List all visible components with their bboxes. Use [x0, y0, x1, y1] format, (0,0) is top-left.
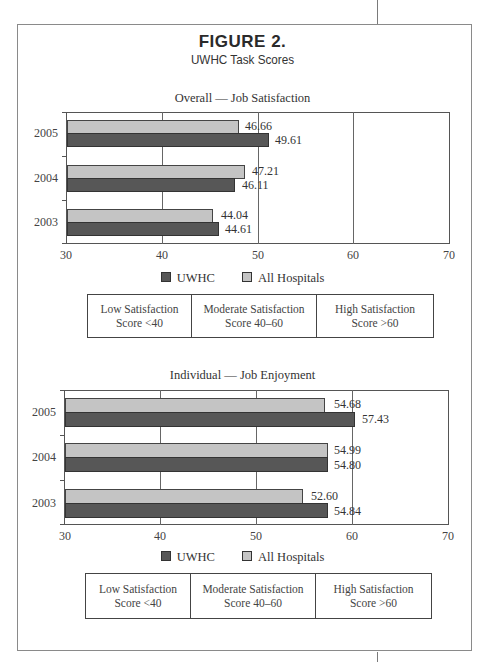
y-label-2004: 2004 [20, 450, 56, 465]
page-rule-top [377, 0, 378, 24]
value-uwhc-2003: 54.84 [334, 504, 361, 519]
key-high-range: Score >60 [333, 596, 413, 610]
value-all-hospitals-2005: 46.66 [245, 119, 272, 134]
legend: UWHC All Hospitals [0, 271, 485, 286]
value-uwhc-2003: 44.61 [225, 222, 252, 237]
x-tick-50: 50 [241, 529, 271, 544]
bar-uwhc-2003 [67, 222, 219, 236]
bar-uwhc-2005 [67, 133, 269, 147]
key-moderate-range: Score 40–60 [202, 596, 303, 610]
key-high-title: High Satisfaction [333, 582, 413, 596]
key-moderate-title: Moderate Satisfaction [202, 582, 303, 596]
legend-item-all-hospitals: All Hospitals [242, 271, 324, 286]
bar-all-hospitals-2005 [65, 398, 325, 413]
bar-all-hospitals-2003 [65, 489, 303, 504]
all-hospitals-swatch-icon [242, 272, 252, 282]
y-tick [62, 243, 66, 244]
x-tick-60: 60 [338, 248, 368, 263]
y-label-2005: 2005 [22, 126, 58, 141]
x-tick-70: 70 [433, 529, 463, 544]
bar-all-hospitals-2004 [65, 443, 328, 458]
bar-all-hospitals-2005 [67, 120, 239, 134]
page-rule-bottom [377, 652, 378, 662]
bar-uwhc-2003 [65, 503, 328, 518]
x-tick-30: 30 [51, 248, 81, 263]
value-all-hospitals-2004: 47.21 [252, 164, 279, 179]
satisfaction-key: Low SatisfactionScore <40 Moderate Satis… [85, 573, 432, 619]
gridline-60 [353, 112, 354, 244]
key-moderate-title: Moderate Satisfaction [203, 302, 304, 316]
uwhc-swatch-icon [161, 272, 171, 282]
bar-uwhc-2005 [65, 412, 355, 427]
key-low-title: Low Satisfaction [99, 582, 177, 596]
y-label-2004: 2004 [22, 171, 58, 186]
figure-subtitle: UWHC Task Scores [24, 52, 461, 67]
y-tick [60, 435, 64, 436]
satisfaction-key: Low SatisfactionScore <40 Moderate Satis… [87, 294, 434, 338]
legend-label-all-hospitals: All Hospitals [258, 550, 324, 564]
chart-title: Individual — Job Enjoyment [0, 368, 485, 383]
figure-label: FIGURE 2. [0, 32, 485, 52]
value-uwhc-2005: 49.61 [275, 133, 302, 148]
legend-label-all-hospitals: All Hospitals [258, 271, 324, 285]
bar-all-hospitals-2004 [67, 165, 245, 179]
y-label-2003: 2003 [22, 215, 58, 230]
y-tick [60, 480, 64, 481]
x-tick-50: 50 [243, 248, 273, 263]
chart-title: Overall — Job Satisfaction [0, 91, 485, 106]
uwhc-swatch-icon [161, 551, 171, 561]
key-low-range: Score <40 [99, 596, 177, 610]
y-tick [60, 524, 64, 525]
key-low: Low SatisfactionScore <40 [88, 295, 192, 337]
value-all-hospitals-2003: 44.04 [221, 208, 248, 223]
legend: UWHC All Hospitals [0, 550, 485, 565]
y-label-2005: 2005 [20, 405, 56, 420]
legend-item-uwhc: UWHC [161, 550, 215, 565]
key-high-range: Score >60 [335, 316, 415, 330]
key-low-title: Low Satisfaction [100, 302, 178, 316]
y-label-2003: 2003 [20, 496, 56, 511]
y-tick [62, 112, 66, 113]
y-tick [60, 390, 64, 391]
legend-label-uwhc: UWHC [177, 271, 215, 285]
key-high: High SatisfactionScore >60 [316, 574, 431, 618]
x-tick-40: 40 [147, 248, 177, 263]
value-uwhc-2005: 57.43 [362, 412, 389, 427]
y-tick [62, 156, 66, 157]
legend-item-all-hospitals: All Hospitals [242, 550, 324, 565]
bar-all-hospitals-2003 [67, 209, 213, 223]
value-uwhc-2004: 54.80 [334, 458, 361, 473]
value-all-hospitals-2004: 54.99 [334, 443, 361, 458]
key-moderate-range: Score 40–60 [203, 316, 304, 330]
value-all-hospitals-2003: 52.60 [311, 489, 338, 504]
x-tick-30: 30 [50, 529, 80, 544]
all-hospitals-swatch-icon [242, 551, 252, 561]
value-uwhc-2004: 46.11 [242, 178, 269, 193]
x-tick-70: 70 [434, 248, 464, 263]
y-tick [62, 200, 66, 201]
x-tick-60: 60 [337, 529, 367, 544]
value-all-hospitals-2005: 54.68 [334, 397, 361, 412]
bar-uwhc-2004 [67, 178, 235, 192]
bar-uwhc-2004 [65, 457, 328, 472]
key-high: High SatisfactionScore >60 [317, 295, 433, 337]
legend-label-uwhc: UWHC [177, 550, 215, 564]
key-high-title: High Satisfaction [335, 302, 415, 316]
x-tick-40: 40 [145, 529, 175, 544]
key-moderate: Moderate SatisfactionScore 40–60 [192, 295, 317, 337]
key-low: Low SatisfactionScore <40 [86, 574, 191, 618]
key-moderate: Moderate SatisfactionScore 40–60 [191, 574, 316, 618]
key-low-range: Score <40 [100, 316, 178, 330]
legend-item-uwhc: UWHC [161, 271, 215, 286]
